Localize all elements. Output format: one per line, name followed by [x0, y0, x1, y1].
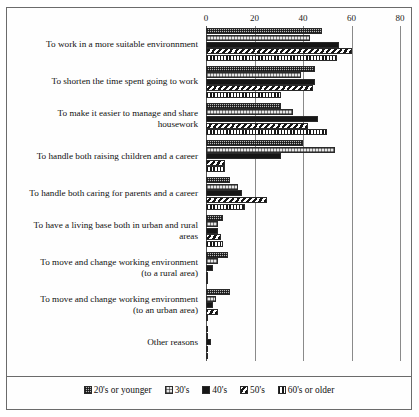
category-label-line: (to a rural area) [10, 268, 198, 279]
bar-group [206, 289, 400, 321]
legend-label: 60's or older [288, 385, 334, 395]
bar [206, 123, 308, 129]
legend-label: 40's [212, 385, 227, 395]
category-label-line: Other reasons [10, 337, 198, 348]
category-label-line: areas [10, 231, 198, 242]
bar [206, 166, 225, 172]
bar [206, 153, 281, 159]
bar [206, 48, 352, 54]
bar [206, 215, 223, 221]
bar [206, 258, 218, 264]
bar [206, 326, 208, 332]
legend-swatch-icon [278, 386, 286, 394]
category-label: To shorten the time spent going to work [10, 76, 198, 87]
legend-item: 50's [240, 385, 265, 395]
category-label: Other reasons [10, 337, 198, 348]
bar [206, 296, 216, 302]
bar [206, 103, 281, 109]
bar [206, 265, 213, 271]
x-tick-label: 80 [396, 13, 405, 23]
legend-label: 30's [175, 385, 190, 395]
bar [206, 241, 223, 247]
bar [206, 79, 315, 85]
category-label-line: To handle both raising children and a ca… [10, 151, 198, 162]
bar-group [206, 103, 400, 135]
bar [206, 204, 245, 210]
bar [206, 228, 218, 234]
chart-legend: 20's or younger30's40's50's60's or older [6, 376, 412, 402]
bar [206, 85, 313, 91]
bar [206, 309, 218, 315]
category-label: To handle both caring for parents and a … [10, 188, 198, 199]
bar [206, 333, 208, 339]
bar [206, 272, 208, 278]
bar [206, 353, 208, 359]
legend-label: 20's or younger [94, 385, 152, 395]
category-label: To handle both raising children and a ca… [10, 151, 198, 162]
bar-group [206, 252, 400, 284]
bar [206, 346, 208, 352]
bar [206, 234, 221, 240]
bar-group [206, 215, 400, 247]
legend-swatch-icon [84, 386, 92, 394]
bar-group [206, 326, 400, 358]
legend-label: 50's [250, 385, 265, 395]
category-label: To work in a more suitable environnment [10, 39, 198, 50]
legend-item: 30's [165, 385, 190, 395]
category-label-line: To have a living base both in urban and … [10, 220, 198, 231]
bar [206, 129, 327, 135]
bar [206, 302, 213, 308]
bar [206, 147, 335, 153]
legend-item: 40's [202, 385, 227, 395]
x-tick-label: 40 [299, 13, 308, 23]
category-label: To have a living base both in urban and … [10, 220, 198, 242]
category-label-line: (to an urban area) [10, 305, 198, 316]
plot-area [206, 26, 400, 361]
bar [206, 289, 230, 295]
bar [206, 35, 310, 41]
category-label-line: To make it easier to manage and share [10, 108, 198, 119]
legend-swatch-icon [240, 386, 248, 394]
x-axis-tick-labels: 020406080 [206, 13, 400, 26]
y-axis-category-labels: To work in a more suitable environnmentT… [10, 26, 202, 361]
bar-group [206, 28, 400, 60]
category-label-line: To shorten the time spent going to work [10, 76, 198, 87]
bar [206, 184, 238, 190]
bar-group [206, 66, 400, 98]
x-tick-label: 20 [250, 13, 259, 23]
bar [206, 278, 208, 284]
bar [206, 66, 315, 72]
category-label-line: housework [10, 119, 198, 130]
bar [206, 92, 281, 98]
legend-item: 20's or younger [84, 385, 152, 395]
bar-group [206, 177, 400, 209]
legend-swatch-icon [165, 386, 173, 394]
legend-swatch-icon [202, 386, 210, 394]
category-label: To move and change working environment(t… [10, 257, 198, 279]
legend-item: 60's or older [278, 385, 334, 395]
bar [206, 42, 339, 48]
bar-group [206, 140, 400, 172]
category-label-line: To move and change working environment [10, 294, 198, 305]
category-label-line: To work in a more suitable environnment [10, 39, 198, 50]
bar [206, 177, 230, 183]
bar-chart: 020406080 To work in a more suitable env… [0, 0, 419, 417]
x-tick-label: 0 [204, 13, 209, 23]
category-label: To move and change working environment(t… [10, 294, 198, 316]
bar [206, 109, 293, 115]
gridline-80 [400, 26, 401, 361]
category-label-line: To handle both caring for parents and a … [10, 188, 198, 199]
bar [206, 221, 218, 227]
bar [206, 28, 322, 34]
bar [206, 339, 211, 345]
bar [206, 72, 301, 78]
category-label-line: To move and change working environment [10, 257, 198, 268]
bar [206, 160, 225, 166]
bar [206, 116, 318, 122]
x-tick-label: 60 [347, 13, 356, 23]
bar [206, 197, 267, 203]
bar [206, 190, 242, 196]
category-label: To make it easier to manage and sharehou… [10, 108, 198, 130]
bar [206, 315, 208, 321]
bar [206, 55, 337, 61]
